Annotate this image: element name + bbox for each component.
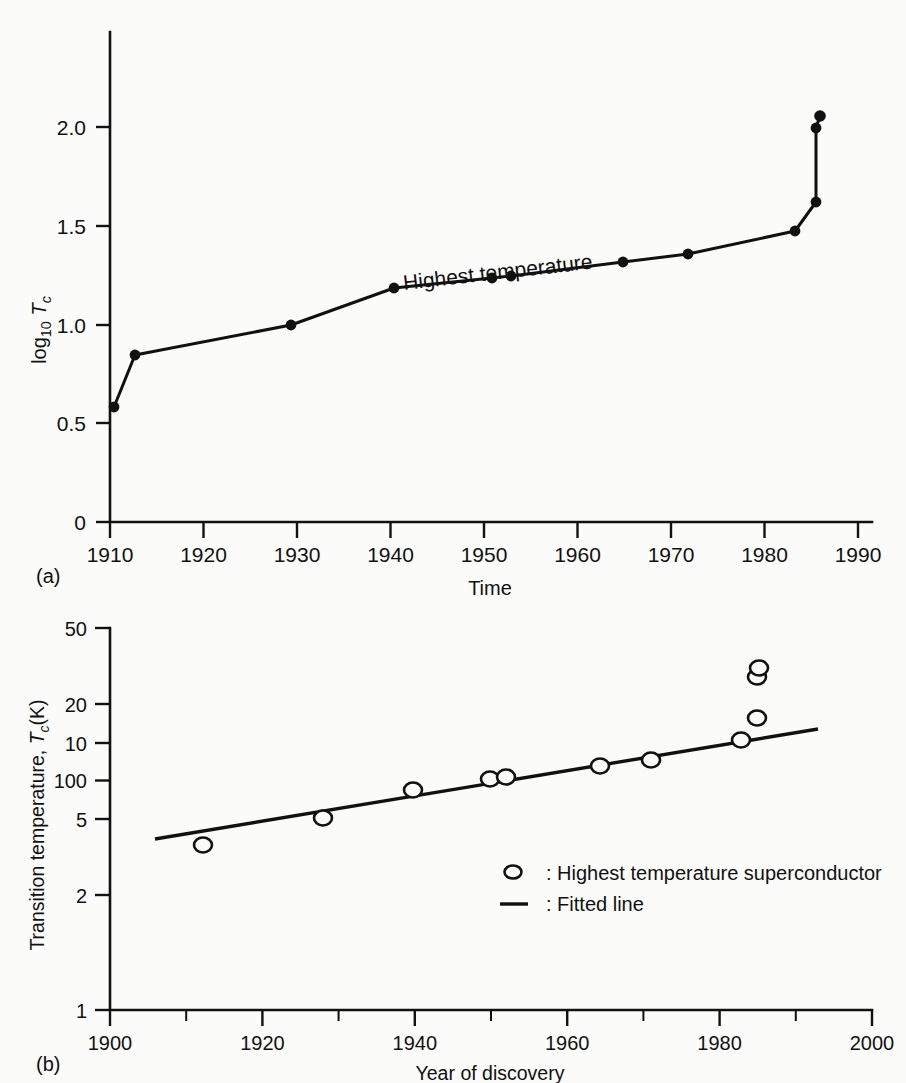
data-point	[790, 226, 801, 237]
x-tick-label-b-3: 1960	[545, 1032, 590, 1054]
y-tick-labels-a: 0 0.5 1.0 1.5 2.0	[57, 116, 86, 534]
x-tick-labels-a: 1910 1920 1930 1940 1950 1960 1970 1980 …	[87, 543, 882, 566]
x-tick-labels-b: 1900 1920 1940 1960 1980 2000	[88, 1032, 895, 1054]
x-tick-label-b-0: 1900	[88, 1032, 133, 1054]
data-point	[811, 197, 822, 208]
data-point	[109, 402, 120, 413]
y-ticks-a	[96, 127, 110, 522]
panel-a-svg: 0 0.5 1.0 1.5 2.0 1910 1920 1930 1940 19…	[0, 0, 906, 600]
y-axis-title-a-sym-sub: c	[38, 295, 54, 303]
x-ticks-a	[110, 522, 858, 538]
y-tick-label-a-2: 1.0	[57, 314, 86, 337]
panel-b-svg: 1 2 5 10 20 50 100 1900 1920 1940 1960 1…	[0, 600, 906, 1083]
y-ticks-b	[95, 628, 110, 1010]
data-point	[194, 838, 212, 853]
data-point	[497, 770, 515, 785]
x-tick-label-a-7: 1980	[741, 543, 788, 566]
x-tick-label-a-6: 1970	[648, 543, 695, 566]
svg-text:Transition temperature, Tc(K): Transition temperature, Tc(K)	[26, 699, 52, 950]
series-markers-a	[109, 110, 826, 412]
panel-a-axes	[96, 32, 872, 538]
y-tick-label-a-3: 1.5	[57, 215, 86, 238]
data-point	[811, 123, 822, 134]
panel-label-b: (b)	[36, 1053, 60, 1075]
y-tick-labels-b: 1 2 5 10 20 50 100	[54, 618, 87, 1022]
x-axis-title-b: Year of discovery	[416, 1062, 565, 1083]
y-tick-label-a-1: 0.5	[57, 412, 86, 435]
x-tick-label-a-3: 1940	[367, 543, 414, 566]
y-axis-title-a: log10 Tc	[28, 295, 54, 364]
x-tick-label-b-4: 1980	[697, 1032, 742, 1054]
x-tick-label-a-1: 1920	[180, 543, 227, 566]
x-tick-label-b-2: 1940	[393, 1032, 438, 1054]
data-point	[748, 711, 766, 726]
svg-text:log10 Tc: log10 Tc	[28, 295, 54, 364]
chart-panel-b: 1 2 5 10 20 50 100 1900 1920 1940 1960 1…	[0, 600, 906, 1083]
x-tick-label-a-2: 1930	[274, 543, 321, 566]
y-axis-title-a-base-sub: 10	[38, 321, 54, 337]
data-point	[750, 661, 768, 676]
y-axis-title-b-sym-sub: c	[36, 725, 52, 732]
legend-label-superconductor: : Highest temperature superconductor	[546, 862, 882, 884]
y-axis-title-a-base: log	[28, 337, 50, 364]
data-point	[389, 283, 400, 294]
data-point	[286, 320, 297, 331]
y-tick-label-b-4: 20	[65, 694, 87, 716]
data-point	[642, 753, 660, 768]
svg-text:Highest temperature: Highest temperature	[402, 250, 594, 294]
y-tick-label-b-6: 100	[54, 770, 87, 792]
x-ticks-b	[110, 1010, 872, 1026]
legend-label-fitted-line: : Fitted line	[546, 893, 644, 915]
panel-label-a: (a)	[36, 565, 60, 587]
data-point	[130, 350, 141, 361]
x-tick-label-a-5: 1960	[554, 543, 601, 566]
x-tick-label-b-5: 2000	[850, 1032, 895, 1054]
y-axis-title-b-lead: Transition temperature,	[26, 744, 48, 950]
legend: : Highest temperature superconductor : F…	[500, 862, 882, 915]
y-tick-label-b-5: 50	[65, 618, 87, 640]
x-tick-label-a-8: 1990	[835, 543, 882, 566]
data-point	[618, 257, 629, 268]
series-line-highest-temperature	[114, 116, 820, 407]
y-tick-label-b-1: 2	[76, 885, 87, 907]
y-axis-title-b-tail: (K)	[26, 699, 48, 725]
x-tick-label-a-0: 1910	[87, 543, 134, 566]
x-tick-label-a-4: 1950	[461, 543, 508, 566]
data-point	[314, 811, 332, 826]
data-point	[683, 249, 694, 260]
data-point	[404, 783, 422, 798]
annotation-highest-temperature: Highest temperature	[402, 250, 594, 294]
chart-panel-a: 0 0.5 1.0 1.5 2.0 1910 1920 1930 1940 19…	[0, 0, 906, 600]
x-axis-title-a: Time	[468, 577, 512, 599]
y-tick-label-b-0: 1	[76, 1000, 87, 1022]
x-tick-label-b-1: 1920	[240, 1032, 285, 1054]
legend-marker-open-circle	[505, 866, 522, 879]
data-point	[591, 759, 609, 774]
data-point	[814, 110, 826, 122]
series-markers-b	[194, 661, 768, 853]
y-tick-label-b-2: 5	[76, 809, 87, 831]
data-point	[732, 733, 750, 748]
panel-b-axes	[95, 628, 872, 1026]
y-tick-label-a-0: 0	[74, 511, 86, 534]
y-tick-label-b-3: 10	[65, 733, 87, 755]
y-axis-title-b: Transition temperature, Tc(K)	[26, 699, 52, 950]
figure-container: 0 0.5 1.0 1.5 2.0 1910 1920 1930 1940 19…	[0, 0, 906, 1083]
y-tick-label-a-4: 2.0	[57, 116, 86, 139]
